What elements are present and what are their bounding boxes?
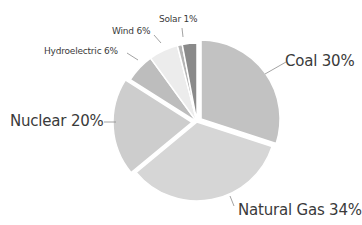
hydro-leader-line	[127, 53, 138, 60]
nuclear-label: Nuclear 20%	[10, 112, 104, 130]
wind-leader-line	[154, 35, 161, 43]
coal-label: Coal 30%	[285, 52, 355, 70]
natural-gas-label: Natural Gas 34%	[238, 201, 362, 219]
solar-label: Solar 1%	[159, 14, 197, 24]
coal-leader-line	[265, 62, 286, 74]
wind-label: Wind 6%	[112, 26, 150, 36]
pie-slices	[113, 40, 280, 201]
solar-leader-line	[182, 28, 183, 37]
hydroelectric-label: Hydroelectric 6%	[44, 46, 118, 56]
gas-leader-line	[230, 196, 234, 206]
